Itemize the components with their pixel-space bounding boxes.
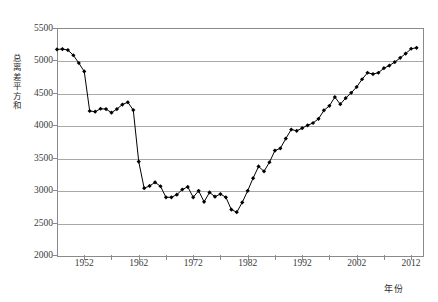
data-point-marker bbox=[305, 123, 309, 127]
data-point-marker bbox=[246, 189, 250, 193]
data-point-marker bbox=[224, 195, 228, 199]
data-point-marker bbox=[295, 129, 299, 133]
data-point-marker bbox=[88, 109, 92, 113]
data-point-marker bbox=[55, 47, 59, 51]
series-markers bbox=[55, 46, 419, 215]
data-point-marker bbox=[240, 200, 244, 204]
data-point-marker bbox=[142, 186, 146, 190]
x-tick-label: 1952 bbox=[75, 258, 94, 268]
x-tick-label: 2002 bbox=[347, 258, 366, 268]
data-point-marker bbox=[169, 195, 173, 199]
x-tick-label: 1962 bbox=[129, 258, 148, 268]
data-point-marker bbox=[278, 146, 282, 150]
y-axis-tick-labels: 20002500300035004000450050005500 bbox=[5, 28, 53, 255]
x-tick-label: 2012 bbox=[402, 258, 421, 268]
data-point-marker bbox=[273, 148, 277, 152]
y-tick-label: 5000 bbox=[7, 55, 53, 65]
y-tick-label: 5500 bbox=[7, 23, 53, 33]
y-tick-label: 2500 bbox=[7, 218, 53, 228]
x-axis-tick-labels: 1952196219721982199220022012 bbox=[57, 258, 422, 272]
data-point-marker bbox=[137, 160, 141, 164]
y-tick-label: 3000 bbox=[7, 185, 53, 195]
y-tick-label: 3500 bbox=[7, 153, 53, 163]
y-tick-label: 4000 bbox=[7, 120, 53, 130]
line-chart: 总离差平方和 20002500300035004000450050005500 … bbox=[0, 0, 438, 302]
data-point-marker bbox=[251, 176, 255, 180]
series-line bbox=[57, 48, 417, 212]
y-tick-label: 4500 bbox=[7, 88, 53, 98]
data-point-marker bbox=[289, 127, 293, 131]
data-point-marker bbox=[60, 47, 64, 51]
data-point-marker bbox=[218, 192, 222, 196]
x-axis-title: 年份 bbox=[384, 282, 403, 295]
data-point-marker bbox=[186, 185, 190, 189]
x-tick-label: 1992 bbox=[293, 258, 312, 268]
data-point-marker bbox=[414, 46, 418, 50]
data-point-marker bbox=[164, 195, 168, 199]
data-point-marker bbox=[98, 107, 102, 111]
x-tick-label: 1972 bbox=[184, 258, 203, 268]
data-point-marker bbox=[235, 210, 239, 214]
data-point-marker bbox=[229, 208, 233, 212]
y-tick-label: 2000 bbox=[7, 250, 53, 260]
data-series-layer bbox=[57, 28, 422, 255]
x-tick-label: 1982 bbox=[238, 258, 257, 268]
data-point-marker bbox=[300, 126, 304, 130]
data-point-marker bbox=[93, 110, 97, 114]
data-point-marker bbox=[202, 200, 206, 204]
data-point-marker bbox=[284, 136, 288, 140]
data-point-marker bbox=[371, 72, 375, 76]
